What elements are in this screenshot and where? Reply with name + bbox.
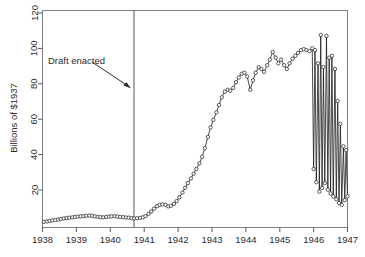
data-point-marker xyxy=(326,188,329,191)
data-point-marker xyxy=(192,172,195,175)
data-point-marker xyxy=(262,70,265,73)
data-point-marker xyxy=(271,50,274,53)
data-point-marker xyxy=(346,195,349,198)
x-tick-label: 1943 xyxy=(201,234,222,245)
x-tick-label: 1942 xyxy=(168,234,189,245)
data-point-marker xyxy=(144,214,147,217)
y-tick-label: 40 xyxy=(29,149,40,160)
data-point-marker xyxy=(245,75,248,78)
data-point-marker xyxy=(288,62,291,65)
data-point-marker xyxy=(212,118,215,121)
data-point-marker xyxy=(332,195,335,198)
data-point-marker xyxy=(237,76,240,79)
data-point-marker xyxy=(215,111,218,114)
data-point-marker xyxy=(340,203,343,206)
data-point-marker xyxy=(172,202,175,205)
data-point-marker xyxy=(178,196,181,199)
y-tick-label: 20 xyxy=(29,185,40,196)
x-tick-label: 1945 xyxy=(269,234,290,245)
y-axis-tick-labels: 120 100 80 60 40 20 xyxy=(29,5,40,195)
data-point-marker xyxy=(319,33,322,36)
data-point-marker xyxy=(268,58,271,61)
data-point-marker xyxy=(229,89,232,92)
data-point-marker xyxy=(285,67,288,70)
data-point-marker xyxy=(336,99,339,102)
x-axis-tick-labels: 1938 1939 1940 1941 1942 1943 1944 1945 … xyxy=(32,234,358,245)
data-point-marker xyxy=(152,207,155,210)
y-axis-title: Billions of $1937 xyxy=(8,83,19,153)
data-point-marker xyxy=(277,62,280,65)
data-point-marker xyxy=(175,199,178,202)
y-tick-label: 100 xyxy=(29,40,40,56)
data-point-marker xyxy=(217,103,220,106)
data-point-marker xyxy=(335,198,338,201)
data-point-marker xyxy=(344,148,347,151)
data-point-marker xyxy=(265,64,268,67)
data-point-marker xyxy=(339,122,342,125)
data-point-marker xyxy=(274,56,277,59)
time-series-chart: 120 100 80 60 40 20 Billions of $1937 19… xyxy=(0,0,365,257)
x-tick-label: 1941 xyxy=(134,234,155,245)
chart-figure: 120 100 80 60 40 20 Billions of $1937 19… xyxy=(0,0,365,257)
data-point-marker xyxy=(209,126,212,129)
data-point-marker xyxy=(333,67,336,70)
data-point-marker xyxy=(343,198,346,201)
data-point-marker xyxy=(294,54,297,57)
y-tick-label: 120 xyxy=(29,5,40,21)
data-point-marker xyxy=(291,57,294,60)
data-point-marker xyxy=(150,210,153,213)
data-point-marker xyxy=(320,186,323,189)
data-point-marker xyxy=(318,190,321,193)
y-tick-label: 80 xyxy=(29,79,40,90)
data-point-marker xyxy=(260,67,263,70)
y-axis-ticks xyxy=(38,13,43,190)
data-point-marker xyxy=(251,79,254,82)
data-point-marker xyxy=(200,155,203,158)
x-tick-label: 1947 xyxy=(337,234,358,245)
annotation-label: Draft enacted xyxy=(48,55,105,66)
data-point-marker xyxy=(322,65,325,68)
data-point-marker xyxy=(232,86,235,89)
data-point-marker xyxy=(323,181,326,184)
x-tick-label: 1939 xyxy=(66,234,87,245)
data-point-marker xyxy=(206,135,209,138)
data-point-marker xyxy=(312,167,315,170)
data-point-marker xyxy=(234,81,237,84)
data-point-marker xyxy=(316,62,319,65)
data-point-marker xyxy=(249,88,252,91)
x-axis-ticks xyxy=(43,228,348,233)
data-point-marker xyxy=(195,167,198,170)
data-point-marker xyxy=(329,192,332,195)
data-point-marker xyxy=(279,58,282,61)
data-point-marker xyxy=(315,181,318,184)
data-point-marker xyxy=(282,64,285,67)
x-tick-label: 1944 xyxy=(235,234,256,245)
data-point-marker xyxy=(308,49,311,52)
data-point-marker xyxy=(186,181,189,184)
data-point-marker xyxy=(342,145,345,148)
data-point-marker xyxy=(325,34,328,37)
x-tick-label: 1946 xyxy=(303,234,324,245)
x-tick-label: 1938 xyxy=(32,234,53,245)
data-point-marker xyxy=(330,54,333,57)
data-point-marker xyxy=(181,191,184,194)
data-point-marker xyxy=(183,186,186,189)
x-tick-label: 1940 xyxy=(100,234,121,245)
data-point-marker xyxy=(220,96,223,99)
data-point-marker xyxy=(243,71,246,74)
data-point-marker xyxy=(313,48,316,51)
data-point-marker xyxy=(198,162,201,165)
y-tick-label: 60 xyxy=(29,114,40,125)
data-point-marker xyxy=(296,51,299,54)
data-point-marker xyxy=(203,147,206,150)
data-point-marker xyxy=(189,177,192,180)
data-point-marker xyxy=(254,71,257,74)
plot-frame xyxy=(43,11,348,228)
